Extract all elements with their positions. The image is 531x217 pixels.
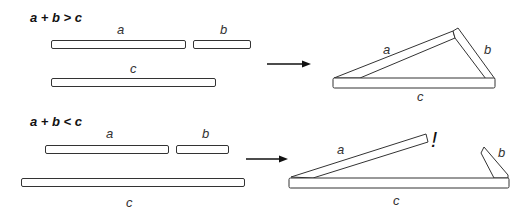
panel2-broken-triangle [289, 134, 509, 188]
panel1-triangle [333, 28, 495, 88]
panel1-result-label-a: a [383, 42, 390, 57]
exclamation-icon: ! [431, 127, 437, 153]
panel2-result-label-a: a [337, 142, 344, 157]
panel2-result-label-b: b [498, 145, 505, 160]
panel2-result-label-c: c [393, 193, 400, 208]
arrow-right-icon [246, 156, 288, 163]
diagram-geometry [0, 0, 531, 217]
panel1-result-label-b: b [484, 42, 491, 57]
panel1-result-label-c: c [417, 89, 424, 104]
triangle-inequality-diagram: a + b > c a b c a + b < c a b c [0, 0, 531, 217]
arrow-right-icon [267, 61, 311, 68]
